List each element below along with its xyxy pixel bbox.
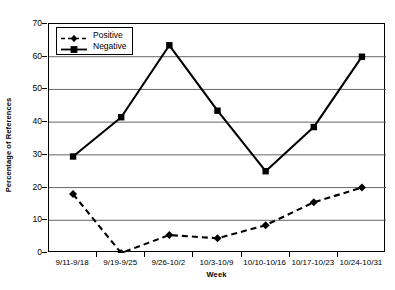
y-tick-mark — [42, 154, 47, 155]
legend-label-positive: Positive — [88, 30, 123, 41]
x-tick-label: 9/19-9/25 — [103, 258, 137, 268]
x-tick-label: 10/10-10/16 — [243, 258, 286, 268]
y-tick-mark — [42, 219, 47, 220]
data-point-negative — [311, 124, 317, 130]
line-chart: Percentage of References 010203040506070… — [0, 0, 395, 290]
y-tick-label: 20 — [16, 183, 42, 191]
data-point-positive — [214, 234, 222, 242]
y-axis-tick-labels: 010203040506070 — [14, 0, 42, 290]
x-axis-title: Week — [48, 270, 385, 279]
y-tick-mark — [42, 56, 47, 57]
data-point-negative — [70, 153, 76, 159]
y-tick-mark — [42, 88, 47, 89]
x-tick-label: 9/11-9/18 — [55, 258, 88, 268]
data-point-negative — [262, 168, 268, 174]
x-tick-label: 10/3-10/9 — [200, 258, 234, 268]
y-tick-label: 70 — [16, 19, 42, 27]
x-tick-label: 10/24-10/31 — [340, 258, 383, 268]
legend-key-solid-square-icon — [60, 41, 88, 52]
y-tick-label: 10 — [16, 215, 42, 223]
legend-item-negative: Negative — [60, 41, 127, 52]
data-point-negative — [166, 42, 172, 48]
data-point-positive — [165, 231, 173, 239]
data-point-positive — [262, 221, 270, 229]
chart-legend: Positive Negative — [56, 27, 133, 55]
data-point-negative — [359, 54, 365, 60]
data-point-positive — [310, 198, 318, 206]
y-tick-mark — [42, 252, 47, 253]
y-tick-label: 60 — [16, 52, 42, 60]
legend-key-dashed-diamond-icon — [60, 30, 88, 41]
data-point-negative — [118, 114, 124, 120]
plot-area — [48, 23, 385, 252]
plot-svg — [49, 24, 386, 253]
y-tick-label: 40 — [16, 117, 42, 125]
y-tick-mark — [42, 23, 47, 24]
y-tick-label: 30 — [16, 150, 42, 158]
legend-item-positive: Positive — [60, 30, 127, 41]
y-tick-label: 0 — [16, 248, 42, 256]
y-tick-label: 50 — [16, 84, 42, 92]
y-tick-mark — [42, 187, 47, 188]
legend-label-negative: Negative — [88, 41, 127, 52]
y-tick-mark — [42, 121, 47, 122]
data-point-positive — [358, 184, 366, 192]
x-tick-label: 9/26-10/2 — [151, 258, 185, 268]
x-tick-label: 10/17-10/23 — [291, 258, 334, 268]
data-point-negative — [214, 107, 220, 113]
